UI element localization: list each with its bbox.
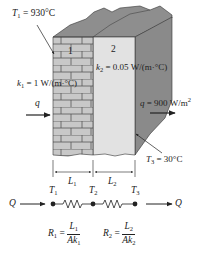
t1-label: T1 = 930°C [12,9,55,20]
layer-1-brick [53,37,93,156]
circuit-q-left: Q [9,199,16,209]
l2-label: L2 [108,177,117,188]
node-t2-label: T2 [89,186,98,197]
layer-2-number: 2 [111,45,116,55]
wall-side-face [135,17,172,155]
t3-label: T3 = 30°C [146,155,182,166]
q-out-label: q = 900 W/m2 [140,97,191,108]
node-t3 [133,202,138,207]
node-t1-label: T1 [49,186,58,197]
layer-1-number: 1 [68,47,73,57]
node-t2 [91,202,96,207]
circuit-q-right: Q [175,199,182,209]
equation-r2: R2 = L2 Ak2 [103,222,135,246]
node-t1 [51,202,56,207]
k1-label: k1 = 1 W/(m·°C) [17,79,77,90]
layer-2-insulation [93,37,135,156]
q-in-label: q [35,99,40,109]
equation-r1: R1 = L1 Ak1 [48,222,80,246]
l1-label: L1 [68,177,77,188]
resistor-r2 [93,200,135,208]
node-t3-label: T3 [131,186,140,197]
resistor-r1 [53,200,93,208]
k2-label: k2 = 0.05 W/(m·°C) [96,63,167,74]
